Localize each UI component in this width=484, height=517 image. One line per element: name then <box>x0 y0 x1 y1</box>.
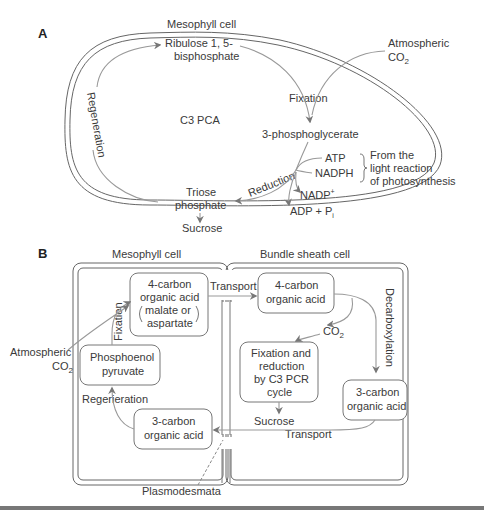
pep-label-1: Phosphoenol <box>90 351 154 363</box>
adp-label: ADP + Pi <box>290 205 334 219</box>
brace-icon <box>360 154 367 182</box>
bundle-3carbon-label-2: organic acid <box>347 400 406 412</box>
transport-top-label: Transport <box>210 280 257 292</box>
triose-label-2: phosphate <box>175 199 226 211</box>
fixation-label-a: Fixation <box>289 92 328 104</box>
atp-label: ATP <box>325 152 346 164</box>
atmospheric-label-a: Atmospheric <box>388 37 450 49</box>
co2-label-bundle: CO2 <box>323 325 345 340</box>
bundle-3carbon-label-1: 3-carbon <box>356 386 399 398</box>
meso-4carbon-label-4: aspartate <box>147 317 193 329</box>
pcr-label-2: reduction <box>259 360 304 372</box>
ribulose-label-2: bisphosphate <box>174 50 239 62</box>
fixation-arrow-a <box>240 46 310 122</box>
co2-label-a: CO2 <box>388 51 410 66</box>
decarboxylation-label: Decarboxylation <box>384 288 396 367</box>
light-reaction-label-2: light reaction <box>370 162 432 174</box>
atmospheric-label-b: Atmospheric <box>10 346 72 358</box>
meso-4carbon-label-2: organic acid <box>140 291 199 303</box>
pcr-label-3: by C3 PCR <box>254 373 309 385</box>
meso-3carbon-label-1: 3-carbon <box>152 415 195 427</box>
reduction-stem <box>296 142 308 170</box>
pcr-label-1: Fixation and <box>251 347 311 359</box>
bundle-4carbon-label-2: organic acid <box>266 293 325 305</box>
light-reaction-label-1: From the <box>370 149 414 161</box>
c3-c4-diagram: A Mesophyll cell Ribulose 1, 5- bisphosp… <box>0 0 484 517</box>
panel-a-label: A <box>38 26 48 41</box>
meso-3carbon-label-2: organic acid <box>144 429 203 441</box>
light-reaction-label-3: of photosynthesis <box>370 175 456 187</box>
pcr-label-4: cycle <box>267 386 292 398</box>
triose-label-1: Triose <box>186 186 216 198</box>
c3pca-label: C3 PCA <box>180 114 220 126</box>
plasmodesmata-channel <box>220 270 234 483</box>
meso-4carbon-label-1: 4-carbon <box>148 278 191 290</box>
meso-4carbon-label-3: malate or <box>145 304 191 316</box>
regeneration-return-line <box>93 150 158 202</box>
sucrose-label-b: Sucrose <box>254 415 294 427</box>
sucrose-label-a: Sucrose <box>182 222 222 234</box>
pep-label-2: pyruvate <box>102 365 144 377</box>
panel-b-label: B <box>38 246 47 261</box>
regeneration-arrow-a <box>97 45 160 87</box>
co2-to-pcr-arrow <box>296 334 320 341</box>
ribulose-label-1: Ribulose 1, 5- <box>165 37 233 49</box>
co2-label-b: CO2 <box>52 360 74 375</box>
plasmodesmata-label: Plasmodesmata <box>142 485 222 497</box>
mesophyll-cell-label-a: Mesophyll cell <box>167 18 236 30</box>
mesophyll-cell-label-b: Mesophyll cell <box>112 248 181 260</box>
nadp-label: NADP+ <box>300 188 335 201</box>
bundle-sheath-label: Bundle sheath cell <box>260 248 350 260</box>
phosphoglycerate-label: 3-phosphoglycerate <box>262 128 359 140</box>
regeneration-label-b: Regerieration <box>82 393 148 405</box>
bundle-4carbon-label-1: 4-carbon <box>275 279 318 291</box>
nadph-label: NADPH <box>315 167 354 179</box>
bottom-rule <box>0 506 484 510</box>
regeneration-label-a: Regeneration <box>85 91 108 158</box>
nadph-line <box>296 170 312 173</box>
